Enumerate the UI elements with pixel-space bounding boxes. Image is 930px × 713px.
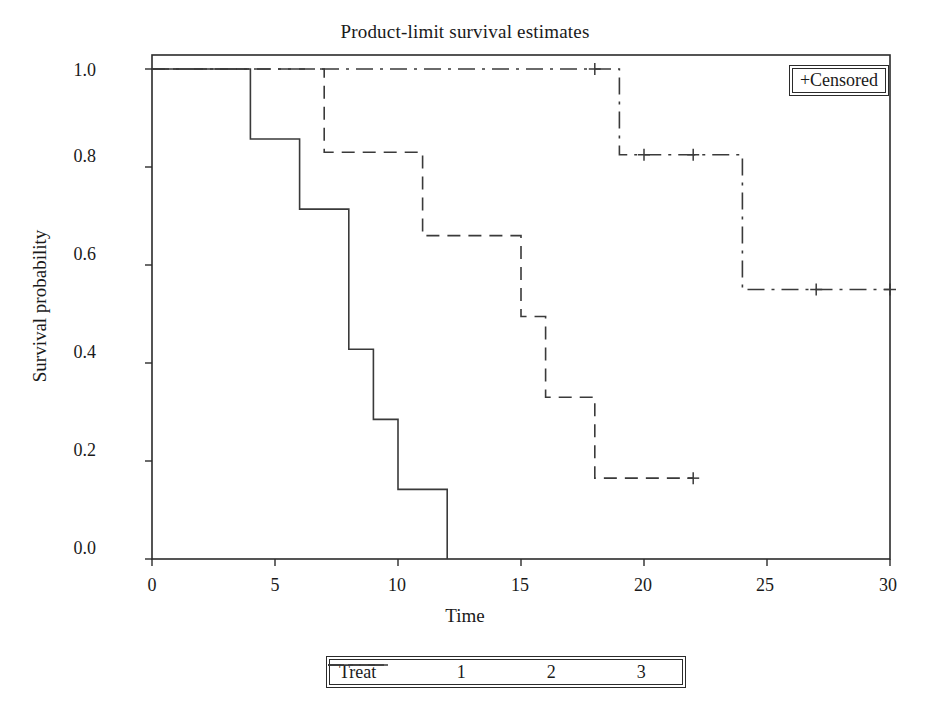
survival-plot-figure: Product-limit survival estimates Time Su… (0, 0, 930, 713)
legend-key-3 (565, 671, 627, 673)
legend-label-2: 2 (546, 662, 556, 683)
legend-label-1: 1 (456, 662, 466, 683)
legend-label-3: 3 (636, 662, 646, 683)
axis-frame (145, 55, 890, 566)
survival-curves (152, 69, 890, 559)
survival-curve-1 (152, 69, 447, 559)
censored-legend-box: +Censored (789, 65, 889, 96)
censored-legend-label: +Censored (800, 70, 878, 91)
survival-curve-2 (152, 69, 693, 478)
treat-legend-box: Treat 1 2 3 (326, 656, 686, 688)
legend-key-2 (475, 671, 537, 673)
plot-frame (152, 55, 890, 559)
legend-key-1 (385, 671, 447, 673)
plot-canvas (0, 0, 930, 713)
